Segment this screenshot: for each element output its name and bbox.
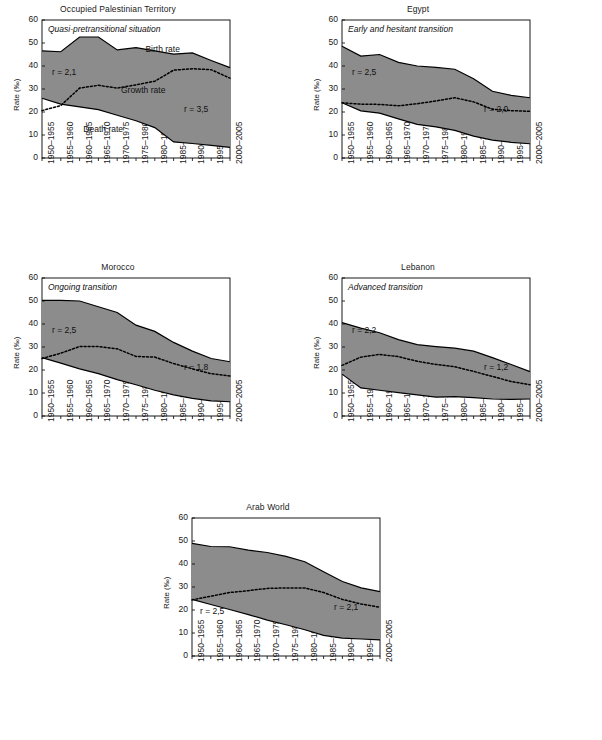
plot-area (152, 502, 384, 654)
series-label: Birth rate (145, 44, 180, 54)
x-tick-label: 2000–2005 (534, 379, 544, 422)
rate-band-fill (342, 46, 530, 144)
growth-rate-annotation: r = 2,5 (352, 67, 376, 77)
chart-panel-egypt: EgyptRate (‰)01020304050601950–19551955–… (302, 4, 534, 156)
growth-rate-annotation: r = 3,5 (184, 104, 208, 114)
growth-rate-annotation: r = 2,5 (200, 606, 224, 616)
growth-rate-annotation: r = 1,8 (184, 362, 208, 372)
panel-subtitle: Advanced transition (348, 282, 423, 292)
chart-panel-arab-world: Arab WorldRate (‰)01020304050601950–1955… (152, 502, 384, 654)
growth-rate-annotation: r = 2,5 (52, 325, 76, 335)
growth-rate-annotation: r = 2,1 (334, 602, 358, 612)
chart-panel-morocco: MoroccoRate (‰)01020304050601950–1955195… (2, 262, 234, 414)
chart-panel-occupied-palestinian-territory: Occupied Palestinian TerritoryRate (‰)01… (2, 4, 234, 156)
growth-rate-annotation: r = 2,0 (484, 104, 508, 114)
growth-rate-annotation: r = 2,2 (352, 325, 376, 335)
growth-rate-annotation: r = 1,2 (484, 362, 508, 372)
series-label: Growth rate (121, 85, 165, 95)
panel-subtitle: Ongoing transition (48, 282, 117, 292)
x-tick-label: 2000–2005 (234, 121, 244, 164)
series-label: Death rate (83, 124, 123, 134)
rate-band-fill (42, 300, 230, 401)
panel-subtitle: Quasi-pretransitional situation (48, 24, 160, 34)
x-tick-label: 2000–2005 (234, 379, 244, 422)
x-tick-label: 2000–2005 (384, 619, 394, 662)
x-tick-label: 2000–2005 (534, 121, 544, 164)
growth-rate-annotation: r = 2,1 (52, 67, 76, 77)
rate-band-fill (192, 543, 380, 640)
chart-panel-lebanon: LebanonRate (‰)01020304050601950–1955195… (302, 262, 534, 414)
panel-subtitle: Early and hesitant transition (348, 24, 453, 34)
plot-area (2, 262, 234, 414)
